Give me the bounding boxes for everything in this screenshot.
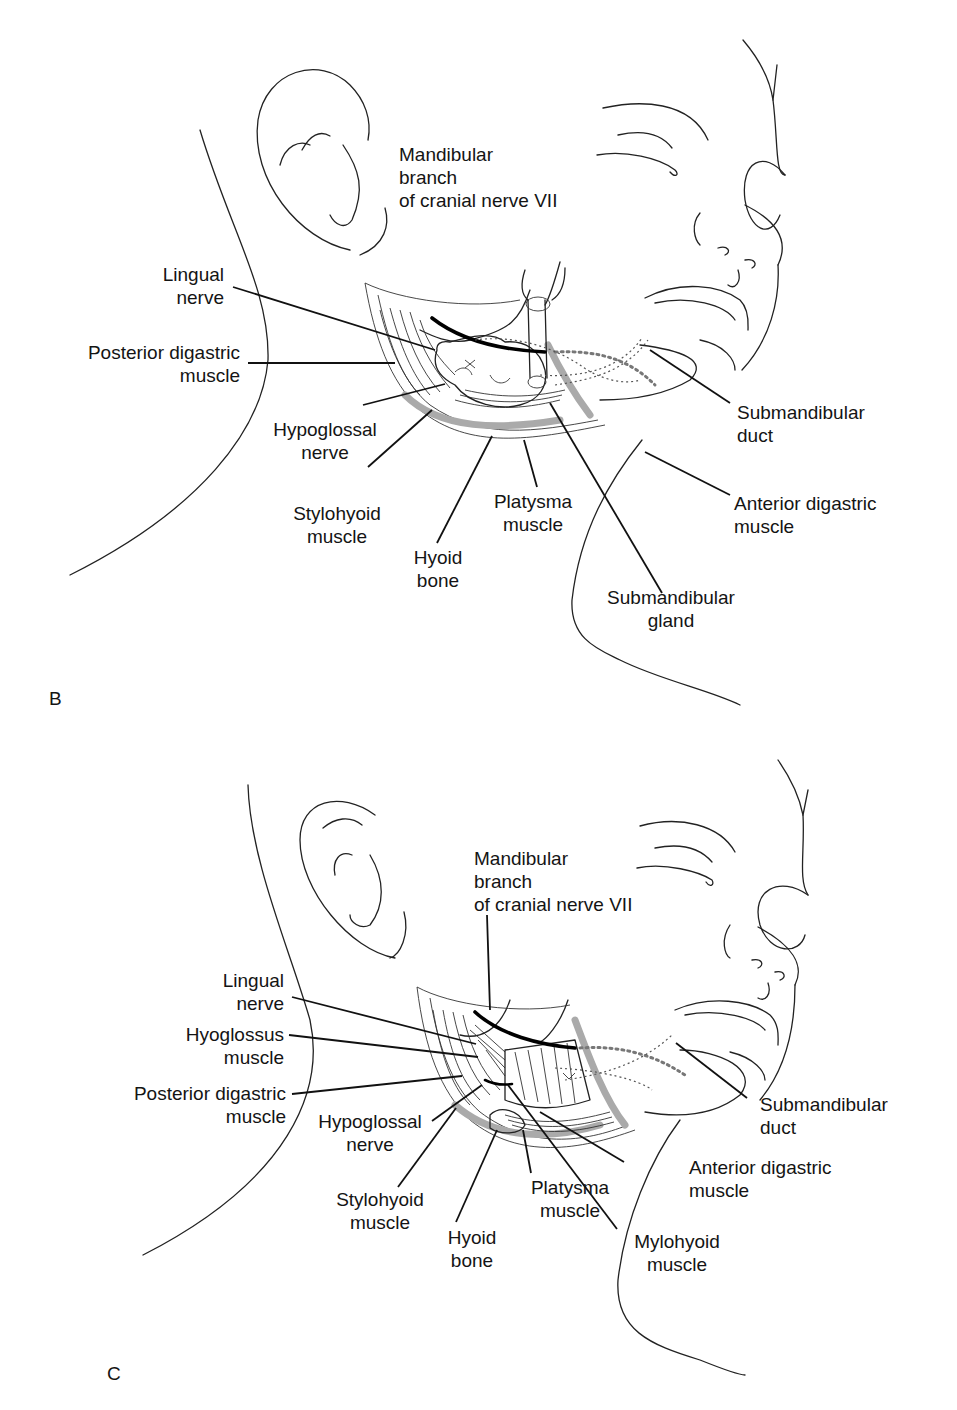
label-b-lingual-nerve: Lingual nerve (140, 263, 224, 309)
label-c-hypoglossal-nerve: Hypoglossal nerve (305, 1110, 435, 1156)
label-c-submandibular-duct: Submandibular duct (760, 1093, 888, 1139)
label-b-anterior-digastric: Anterior digastric muscle (734, 492, 877, 538)
label-b-mandibular-branch: Mandibular branch of cranial nerve VII (399, 143, 557, 212)
label-c-lingual-nerve: Lingual nerve (200, 969, 284, 1015)
label-b-hypoglossal-nerve: Hypoglossal nerve (255, 418, 395, 464)
label-c-anterior-digastric: Anterior digastric muscle (689, 1156, 832, 1202)
label-c-hyoglossus-muscle: Hyoglossus muscle (160, 1023, 284, 1069)
label-b-platysma-muscle: Platysma muscle (483, 490, 583, 536)
label-b-submandibular-gland: Submandibular gland (596, 586, 746, 632)
panel-letter-c: C (107, 1363, 121, 1385)
label-c-hyoid-bone: Hyoid bone (432, 1226, 512, 1272)
label-b-posterior-digastric: Posterior digastric muscle (40, 341, 240, 387)
label-c-mandibular-branch: Mandibular branch of cranial nerve VII (474, 847, 632, 916)
label-c-posterior-digastric: Posterior digastric muscle (90, 1082, 286, 1128)
label-c-stylohyoid-muscle: Stylohyoid muscle (330, 1188, 430, 1234)
label-b-stylohyoid-muscle: Stylohyoid muscle (277, 502, 397, 548)
label-c-mylohyoid-muscle: Mylohyoid muscle (622, 1230, 732, 1276)
label-b-hyoid-bone: Hyoid bone (398, 546, 478, 592)
label-b-submandibular-duct: Submandibular duct (737, 401, 865, 447)
panel-letter-b: B (49, 688, 62, 710)
label-c-platysma-muscle: Platysma muscle (520, 1176, 620, 1222)
